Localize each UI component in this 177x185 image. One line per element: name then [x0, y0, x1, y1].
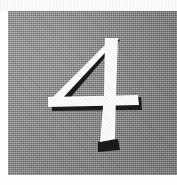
numeral-glyph: [8, 11, 177, 175]
numeral-face: [48, 38, 139, 142]
numeral-plate: [8, 11, 177, 175]
scanned-page: [0, 0, 177, 185]
caption: [8, 177, 177, 183]
numeral-four-icon: [8, 11, 177, 175]
